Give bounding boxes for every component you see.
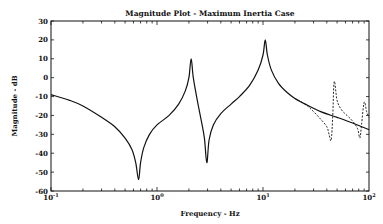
series-solid-line bbox=[51, 40, 369, 180]
y-tick-label: -40 bbox=[35, 149, 48, 158]
y-tick-label: -30 bbox=[35, 130, 48, 139]
chart-title: Magnitude Plot - Maximum Inertia Case bbox=[125, 9, 294, 18]
y-tick-label: -10 bbox=[35, 92, 48, 101]
y-tick-label: 30 bbox=[38, 17, 48, 26]
plot-frame bbox=[51, 21, 369, 191]
y-tick-label: 20 bbox=[38, 35, 48, 44]
x-tick-label: 101 bbox=[256, 192, 269, 202]
series-dashed-line bbox=[295, 81, 369, 141]
y-tick-label: 10 bbox=[38, 54, 48, 63]
x-axis-label: Frequency - Hz bbox=[180, 209, 239, 218]
magnitude-chart: Magnitude Plot - Maximum Inertia Case 30… bbox=[0, 0, 383, 224]
y-axis: 3020100-10-20-30-40-50-60 bbox=[35, 17, 369, 196]
y-axis-label: Magnitude - dB bbox=[10, 75, 19, 136]
y-tick-label: -20 bbox=[35, 111, 48, 120]
x-tick-label: 10-1 bbox=[43, 192, 58, 202]
x-tick-label: 100 bbox=[150, 192, 164, 202]
x-tick-label: 102 bbox=[362, 192, 376, 202]
y-tick-label: 0 bbox=[43, 73, 48, 82]
series-layer bbox=[51, 40, 369, 180]
y-tick-label: -50 bbox=[35, 168, 48, 177]
